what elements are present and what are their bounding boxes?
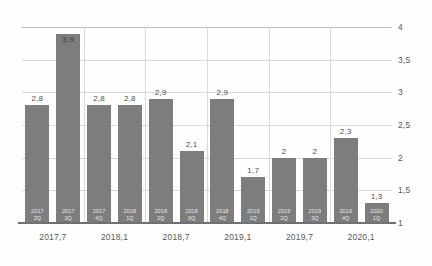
bar-period-year: 2019 [339, 208, 352, 215]
y-axis-tick: 1 [398, 218, 403, 228]
bar-item[interactable]: 1,720191Q [241, 27, 265, 223]
bar-period-year: 2017 [31, 208, 44, 215]
bar-period-label: 20173Q [62, 208, 75, 221]
bar-period-quarter: 1Q [124, 215, 137, 222]
bar-item[interactable]: 2,820174Q [87, 27, 111, 223]
bar-period-label: 20192Q [278, 208, 291, 221]
bar-period-quarter: 3Q [309, 215, 322, 222]
x-axis-tick: 2019,7 [286, 232, 313, 242]
y-axis-tick: 2,5 [398, 120, 410, 130]
bar-period-label: 20182Q [154, 208, 167, 221]
bar-period-year: 2019 [247, 208, 260, 215]
bar-item[interactable]: 220192Q [272, 27, 296, 223]
bar-period-quarter: 2Q [31, 215, 44, 222]
x-axis-tick: 2017,7 [39, 232, 66, 242]
bar-item[interactable]: 2,820172Q [25, 27, 49, 223]
bar-period-label: 20172Q [31, 208, 44, 221]
x-axis-tick: 2020,1 [348, 232, 375, 242]
bar-value-label: 3,9 [62, 35, 74, 44]
bar-item[interactable]: 2,920184Q [210, 27, 234, 223]
bar-item[interactable]: 2,820181Q [118, 27, 142, 223]
bar-period-label: 20181Q [124, 208, 137, 221]
bar-period-quarter: 3Q [185, 215, 198, 222]
bar-period-year: 2018 [216, 208, 229, 215]
bar-value-label: 1,7 [247, 166, 259, 175]
bar-period-year: 2018 [154, 208, 167, 215]
bars-layer: 2,820172Q3,920173Q2,820174Q2,820181Q2,92… [22, 27, 392, 223]
bar-period-quarter: 4Q [216, 215, 229, 222]
bar-value-label: 2,9 [155, 88, 167, 97]
bar-chart: 2,820172Q3,920173Q2,820174Q2,820181Q2,92… [0, 0, 432, 266]
bar-period-label: 20183Q [185, 208, 198, 221]
y-axis-tick: 4 [398, 22, 403, 32]
y-axis-tick: 1,5 [398, 185, 410, 195]
y-axis-tick-labels: 11,522,533,54 [398, 0, 432, 266]
bar-value-label: 2,9 [217, 88, 229, 97]
bar-rect[interactable] [149, 99, 173, 223]
bar-item[interactable]: 2,120183Q [180, 27, 204, 223]
y-axis-tick: 2 [398, 153, 403, 163]
x-axis-tick-labels: 2017,72018,12018,72019,12019,72020,1 [0, 232, 432, 250]
bar-rect[interactable] [210, 99, 234, 223]
bar-period-quarter: 2Q [278, 215, 291, 222]
bar-value-label: 2,3 [340, 127, 352, 136]
bar-period-quarter: 1Q [370, 215, 383, 222]
bar-period-label: 20194Q [339, 208, 352, 221]
bar-period-year: 2018 [124, 208, 137, 215]
bar-period-label: 20191Q [247, 208, 260, 221]
bar-period-quarter: 3Q [62, 215, 75, 222]
bar-period-year: 2020 [370, 208, 383, 215]
x-axis-baseline [18, 222, 396, 224]
bar-period-label: 20174Q [93, 208, 106, 221]
bar-item[interactable]: 2,920182Q [149, 27, 173, 223]
bar-item[interactable]: 3,920173Q [56, 27, 80, 223]
x-axis-tick: 2018,7 [163, 232, 190, 242]
bar-rect[interactable] [118, 105, 142, 223]
bar-item[interactable]: 220193Q [303, 27, 327, 223]
bar-value-label: 2 [313, 147, 318, 156]
bar-period-label: 20193Q [309, 208, 322, 221]
x-axis-tick: 2019,1 [224, 232, 251, 242]
y-axis-tick: 3,5 [398, 55, 410, 65]
bar-period-label: 20184Q [216, 208, 229, 221]
bar-value-label: 2,8 [124, 94, 136, 103]
bar-period-quarter: 2Q [154, 215, 167, 222]
bar-value-label: 2,1 [186, 140, 198, 149]
bar-value-label: 2,8 [32, 94, 44, 103]
bar-period-label: 20201Q [370, 208, 383, 221]
bar-rect[interactable] [25, 105, 49, 223]
bar-rect[interactable] [87, 105, 111, 223]
bar-period-quarter: 4Q [93, 215, 106, 222]
bar-value-label: 1,3 [371, 192, 383, 201]
bar-period-quarter: 4Q [339, 215, 352, 222]
bar-rect[interactable] [56, 34, 80, 223]
bar-period-year: 2017 [62, 208, 75, 215]
bar-period-quarter: 1Q [247, 215, 260, 222]
y-axis-tick: 3 [398, 87, 403, 97]
bar-period-year: 2018 [185, 208, 198, 215]
bar-value-label: 2 [282, 147, 287, 156]
bar-item[interactable]: 1,320201Q [365, 27, 389, 223]
bar-value-label: 2,8 [93, 94, 105, 103]
x-axis-tick: 2018,1 [101, 232, 128, 242]
bar-period-year: 2017 [93, 208, 106, 215]
bar-period-year: 2019 [309, 208, 322, 215]
bar-item[interactable]: 2,320194Q [334, 27, 358, 223]
bar-period-year: 2019 [278, 208, 291, 215]
